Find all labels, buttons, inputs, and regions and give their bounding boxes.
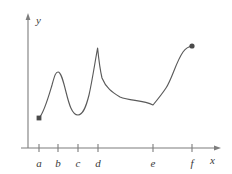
closed-dot-start bbox=[37, 116, 42, 121]
closed-dot-end bbox=[189, 43, 194, 48]
x-axis-label: x bbox=[209, 154, 215, 166]
tick-label-f: f bbox=[190, 157, 195, 169]
tick-label-e: e bbox=[151, 157, 156, 169]
y-axis-label: y bbox=[35, 14, 41, 26]
tick-label-c: c bbox=[76, 157, 81, 169]
x-axis-arrowhead bbox=[214, 146, 221, 151]
y-axis-arrowhead bbox=[26, 13, 31, 20]
plot-canvas: a b c d e f y x bbox=[0, 0, 232, 174]
tick-label-b: b bbox=[55, 157, 61, 169]
function-curve bbox=[39, 46, 192, 118]
tick-label-a: a bbox=[36, 157, 42, 169]
graph-figure: a b c d e f y x bbox=[0, 0, 232, 174]
tick-label-d: d bbox=[95, 157, 101, 169]
